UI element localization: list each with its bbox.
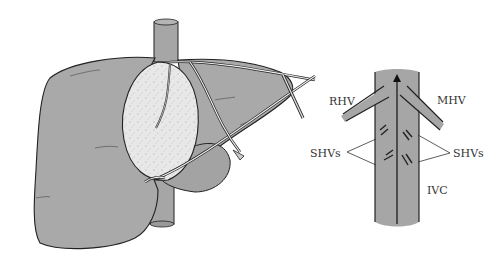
ivc-upper: [154, 19, 178, 62]
figure: RHV MHV SHVs SHVs IVC: [0, 0, 502, 269]
liver-illustration: [34, 19, 315, 249]
ivc-schematic: RHV MHV SHVs SHVs IVC: [310, 69, 484, 227]
label-mhv: MHV: [437, 94, 467, 107]
label-ivc: IVC: [427, 184, 448, 197]
label-shvs-left: SHVs: [310, 147, 341, 160]
label-shvs-right: SHVs: [453, 147, 484, 160]
label-rhv: RHV: [329, 95, 356, 108]
